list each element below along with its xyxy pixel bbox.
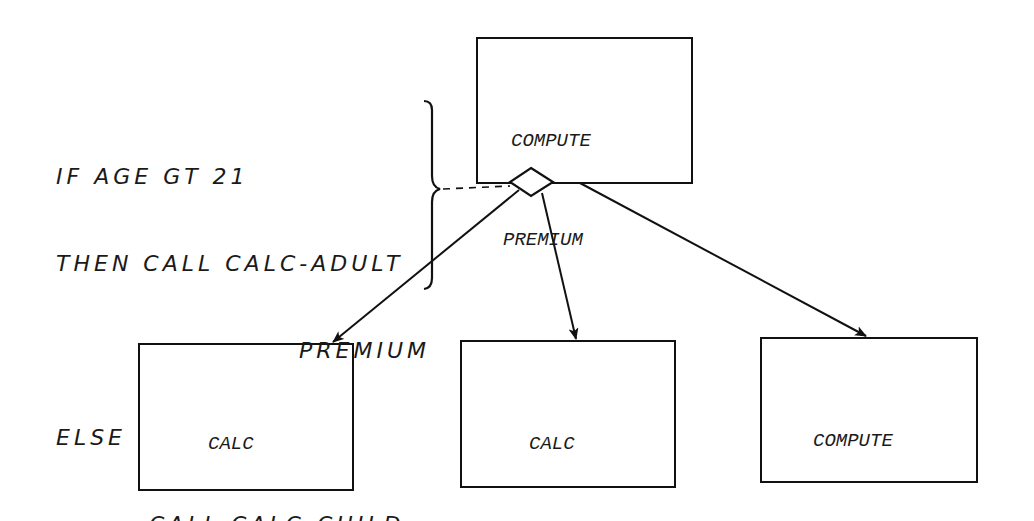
condition-line: CALL CALC-CHILD	[56, 510, 430, 521]
box-label: COMPUTE MONTHLY AMOUNT	[805, 359, 895, 521]
box-calc-child-premium: CALC CHILD PREMIUM	[460, 340, 676, 488]
condition-line: IF AGE GT 21	[56, 162, 430, 191]
structure-chart-diagram: COMPUTE PREMIUM CALC ADULT PREMIUM CALC …	[0, 0, 1034, 521]
condition-line: ELSE	[56, 423, 430, 452]
box-compute-monthly-amount: COMPUTE MONTHLY AMOUNT	[760, 337, 978, 483]
box-label: CALC CHILD PREMIUM	[514, 362, 594, 521]
condition-text: IF AGE GT 21 THEN CALL CALC-ADULT PREMIU…	[56, 104, 430, 521]
condition-line: THEN CALL CALC-ADULT	[56, 249, 430, 278]
decision-diamond-icon	[510, 168, 553, 196]
condition-line: PREMIUM	[56, 336, 430, 365]
label-line: COMPUTE	[805, 425, 895, 458]
label-line: CALC	[514, 428, 594, 461]
